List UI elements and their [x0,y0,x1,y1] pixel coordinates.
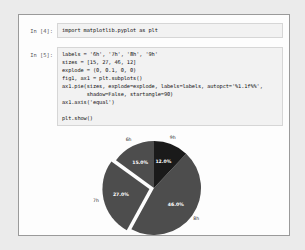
code-line: shadow=False, startangle=90) [62,90,279,98]
pie-category-label: 8h [193,216,199,221]
code-line: labels = '6h', '7h', '8h', '9h' [62,50,279,58]
code-line: explode = (0, 0.1, 0, 0) [62,66,279,74]
pie-percent-label: 12.0% [155,159,171,164]
pie-svg [80,133,228,236]
code-line: ax1.pie(sizes, explode=explode, labels=l… [62,82,279,90]
pie-canvas [80,133,228,236]
code-line: plt.show() [62,114,279,122]
pie-percent-label: 27.0% [113,192,129,197]
pie-category-label: 7h [93,198,99,203]
cell-prompt: In [4]: [19,23,57,35]
jupyter-notebook-panel: In [4]: import matplotlib.pyplot as plt … [18,14,290,236]
notebook-cell[interactable]: In [4]: import matplotlib.pyplot as plt [19,23,289,38]
pie-category-label: 9h [170,135,176,140]
code-line: ax1.axis('equal') [62,98,279,106]
code-line: import matplotlib.pyplot as plt [62,26,279,34]
code-line-blank [62,106,279,114]
pie-percent-label: 46.0% [168,202,184,207]
pie-chart: 15.0%6h27.0%7h46.0%8h12.0%9h [80,133,228,236]
cell-output-area: 15.0%6h27.0%7h46.0%8h12.0%9h [19,133,289,236]
code-line: fig1, ax1 = plt.subplots() [62,74,279,82]
pie-category-label: 6h [126,137,132,142]
pie-percent-label: 15.0% [132,160,148,165]
cell-prompt: In [5]: [19,47,57,59]
code-line: sizes = [15, 27, 46, 12] [62,58,279,66]
code-input-area[interactable]: import matplotlib.pyplot as plt [57,23,283,38]
notebook-cell[interactable]: In [5]: labels = '6h', '7h', '8h', '9h' … [19,47,289,126]
code-input-area[interactable]: labels = '6h', '7h', '8h', '9h' sizes = … [57,47,283,126]
